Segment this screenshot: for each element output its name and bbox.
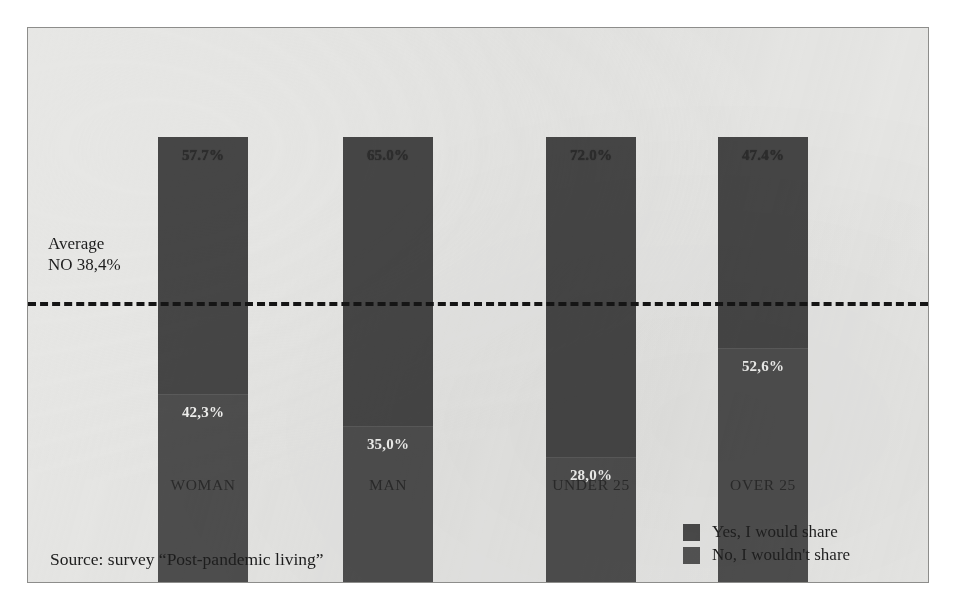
category-label-under-25: UNDER 25 bbox=[526, 476, 656, 494]
average-reference-line bbox=[28, 302, 928, 306]
average-reference-label: Average NO 38,4% bbox=[48, 233, 121, 275]
legend-swatch-no-icon bbox=[683, 547, 700, 564]
bar-value-label-no: 35,0% bbox=[343, 436, 433, 453]
legend-item-yes: Yes, I would share bbox=[683, 522, 850, 542]
legend-label-yes: Yes, I would share bbox=[712, 522, 838, 542]
bar-segment-yes: 57.7% bbox=[158, 137, 248, 394]
bar-group-man: 65.0% 35,0% bbox=[343, 137, 433, 582]
bar-value-label-yes: 57.7% bbox=[158, 147, 248, 164]
bar-value-label-yes: 72.0% bbox=[546, 147, 636, 164]
category-label-man: MAN bbox=[343, 476, 433, 494]
bar-segment-no: 35,0% bbox=[343, 426, 433, 582]
bar-segment-yes: 47.4% bbox=[718, 137, 808, 348]
category-label-woman: WOMAN bbox=[158, 476, 248, 494]
chart-page: 57.7% 42,3% 65.0% 35,0% 72.0% 28,0% bbox=[0, 0, 954, 608]
source-note: Source: survey “Post-pandemic living” bbox=[50, 549, 324, 570]
bar-segment-yes: 65.0% bbox=[343, 137, 433, 426]
legend-label-no: No, I wouldn't share bbox=[712, 545, 850, 565]
legend-swatch-yes-icon bbox=[683, 524, 700, 541]
category-label-over-25: OVER 25 bbox=[698, 476, 828, 494]
bar-value-label-yes: 47.4% bbox=[718, 147, 808, 164]
bar-value-label-no: 52,6% bbox=[718, 358, 808, 375]
chart-frame: 57.7% 42,3% 65.0% 35,0% 72.0% 28,0% bbox=[27, 27, 929, 583]
bar-group-over-25: 47.4% 52,6% bbox=[718, 137, 808, 582]
legend-item-no: No, I wouldn't share bbox=[683, 545, 850, 565]
bar-segment-yes: 72.0% bbox=[546, 137, 636, 457]
bar-group-under-25: 72.0% 28,0% bbox=[546, 137, 636, 582]
bar-value-label-no: 42,3% bbox=[158, 404, 248, 421]
bar-group-woman: 57.7% 42,3% bbox=[158, 137, 248, 582]
chart-legend: Yes, I would share No, I wouldn't share bbox=[683, 522, 850, 565]
bar-value-label-yes: 65.0% bbox=[343, 147, 433, 164]
